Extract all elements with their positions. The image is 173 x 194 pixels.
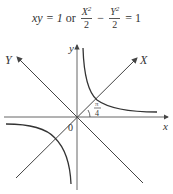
rotated-x-label: X <box>139 53 148 67</box>
x-axis-label: x <box>162 120 168 132</box>
angle-numerator: π <box>95 100 99 108</box>
y-axis-label: y <box>68 42 74 54</box>
rotated-y-label: Y <box>5 53 13 67</box>
rotated-y-axis <box>17 57 143 183</box>
hyperbola-diagram: x y X Y 0 π 4 <box>0 0 173 194</box>
angle-arc <box>88 110 90 117</box>
angle-denominator: 4 <box>95 109 99 118</box>
rotated-x-axis <box>16 58 137 178</box>
origin-label: 0 <box>68 122 73 133</box>
